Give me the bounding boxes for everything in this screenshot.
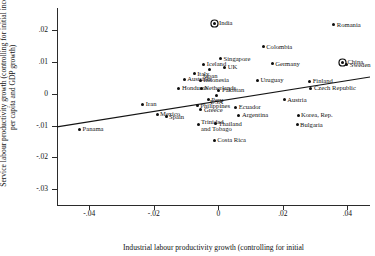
data-point	[308, 80, 311, 83]
data-point-label: Spain	[169, 113, 184, 120]
data-point-label: Iran	[146, 101, 157, 108]
data-point-label: Costa Rica	[217, 137, 246, 144]
data-point	[213, 139, 216, 142]
plot-area: IndiaRomaniaColombiaSingaporeChinaSweden…	[57, 8, 370, 205]
data-point-label: Czech Republic	[314, 84, 356, 91]
y-tick-label: .01	[20, 58, 48, 66]
data-point-label: Panama	[83, 126, 104, 133]
data-point	[256, 79, 259, 82]
data-point-label: Argentina	[242, 112, 268, 119]
data-point-label: Greece	[204, 106, 223, 113]
y-tick-label: .02	[20, 26, 48, 34]
data-point	[262, 45, 265, 48]
data-point-label: Thailand	[218, 120, 241, 127]
y-tick-label: -.03	[20, 185, 48, 193]
y-tick-label: -.02	[20, 153, 48, 161]
y-tick-label: -.01	[20, 122, 48, 130]
data-point-label: Ecuador	[239, 104, 261, 111]
x-tick-label: .04	[327, 209, 367, 218]
data-point	[297, 114, 300, 117]
data-point-label: Austria	[287, 96, 306, 103]
x-axis-title: Industrial labour productivity growth (c…	[57, 243, 370, 252]
data-point-label: UK	[228, 64, 238, 71]
data-point-label: Uruguay	[260, 76, 283, 83]
data-point	[78, 128, 81, 131]
data-point-label: Pakistan	[222, 87, 244, 94]
scatter-chart: Service labour productivity growth (cont…	[0, 0, 375, 256]
data-point	[207, 98, 210, 101]
data-point	[196, 104, 199, 107]
data-point	[200, 87, 203, 90]
x-tick-label: -.04	[69, 209, 109, 218]
y-axis-title-wrapper: Service labour productivity growth (cont…	[0, 0, 17, 187]
data-point-label: India	[219, 20, 233, 27]
data-point	[283, 98, 286, 101]
data-point	[213, 22, 216, 25]
data-point-label: Singapore	[224, 55, 251, 62]
x-tick-label: -.02	[134, 209, 174, 218]
x-tick-label: 0	[198, 209, 238, 218]
data-point-label: Indonesia	[203, 76, 229, 83]
y-tick-label: 0	[20, 90, 48, 98]
data-point-label: Sweden	[350, 61, 371, 68]
data-point-label: Germany	[275, 60, 300, 67]
data-point	[183, 78, 186, 81]
x-axis-line	[57, 205, 370, 206]
x-tick-label: .02	[263, 209, 303, 218]
data-point-label: Bulgaria	[300, 121, 323, 128]
data-point	[156, 113, 159, 116]
y-axis-title: Service labour productivity growth (cont…	[0, 0, 17, 187]
data-point	[165, 115, 168, 118]
data-point	[199, 79, 202, 82]
data-point-label: Romania	[337, 21, 361, 28]
data-point-label: Korea, Rep.	[301, 112, 333, 119]
data-point-label: Colombia	[266, 43, 292, 50]
